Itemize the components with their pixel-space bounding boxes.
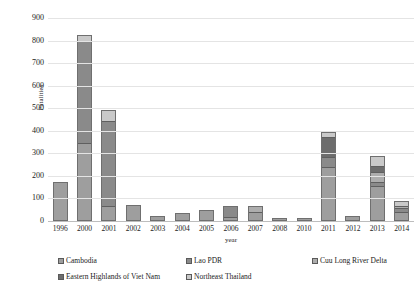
bar-segment-2004-cambodia	[176, 214, 189, 220]
bar-slot-2012	[341, 18, 365, 221]
plot-area: Fatalities 9008007006005004003002001000 …	[0, 0, 420, 250]
gridline-400	[48, 131, 414, 132]
legend-label: Cuu Long River Delta	[320, 256, 387, 265]
bar-segment-2008-cambodia	[273, 219, 286, 220]
bar-slot-2013	[365, 18, 389, 221]
chart-legend: CambodiaLao PDRCuu Long River Delta East…	[0, 252, 420, 296]
bar-segment-2013-cambodia	[371, 187, 384, 220]
bar-2002[interactable]	[126, 205, 141, 221]
y-tick-800: 800	[10, 37, 44, 45]
gridline-200	[48, 176, 414, 177]
x-tick-1996: 1996	[48, 224, 72, 233]
y-axis-tick-labels: 9008007006005004003002001000	[8, 0, 44, 250]
bar-segment-2002-cambodia	[127, 206, 140, 220]
bar-segment-2006-cambodia	[224, 218, 237, 220]
legend-row-2: Eastern Highlands of Viet NamNortheast T…	[0, 270, 420, 283]
y-tick-600: 600	[10, 82, 44, 90]
bar-slot-2011	[316, 18, 340, 221]
bar-segment-2001-cambodia	[102, 207, 115, 220]
legend-row-1: CambodiaLao PDRCuu Long River Delta	[0, 254, 420, 267]
bar-segment-2011-lao-pdr	[322, 158, 335, 168]
x-tick-2002: 2002	[121, 224, 145, 233]
y-tick-400: 400	[10, 127, 44, 135]
bar-segment-2010-cambodia	[298, 219, 311, 220]
bar-segment-2014-cambodia	[395, 213, 408, 220]
bar-slot-2010	[292, 18, 316, 221]
legend-label: Northeast Thailand	[194, 272, 252, 281]
y-tick-300: 300	[10, 149, 44, 157]
y-tick-0: 0	[10, 217, 44, 225]
x-tick-2001: 2001	[97, 224, 121, 233]
bar-2004[interactable]	[175, 213, 190, 221]
bar-segment-2003-cambodia	[151, 217, 164, 220]
gridline-100	[48, 198, 414, 199]
bar-segment-2001-lao-pdr	[102, 122, 115, 208]
bar-segment-2012-cambodia	[346, 217, 359, 220]
bar-slot-2014	[390, 18, 414, 221]
bar-segment-2013-northeast-thailand	[371, 157, 384, 167]
x-tick-2003: 2003	[146, 224, 170, 233]
x-tick-2010: 2010	[292, 224, 316, 233]
bar-2013[interactable]	[370, 156, 385, 221]
legend-swatch-icon	[58, 258, 64, 264]
y-tick-500: 500	[10, 104, 44, 112]
gridline-600	[48, 86, 414, 87]
x-tick-2005: 2005	[195, 224, 219, 233]
bar-slot-2002	[121, 18, 145, 221]
bar-series-container	[48, 18, 414, 221]
bar-slot-2000	[73, 18, 97, 221]
bar-slot-2005	[195, 18, 219, 221]
x-axis-title: year	[48, 236, 414, 244]
x-tick-2004: 2004	[170, 224, 194, 233]
x-tick-2011: 2011	[316, 224, 340, 233]
legend-swatch-icon	[186, 274, 192, 280]
bar-segment-1996-cambodia	[54, 183, 67, 220]
bar-slot-2001	[97, 18, 121, 221]
bar-segment-2000-cambodia	[78, 144, 91, 220]
y-tick-700: 700	[10, 59, 44, 67]
legend-item-cambodia[interactable]: Cambodia	[58, 256, 97, 265]
y-tick-100: 100	[10, 194, 44, 202]
bar-2005[interactable]	[199, 210, 214, 221]
bar-slot-2006	[219, 18, 243, 221]
legend-swatch-icon	[58, 274, 64, 280]
bar-segment-2005-cambodia	[200, 211, 213, 220]
legend-label: Cambodia	[66, 256, 97, 265]
legend-label: Lao PDR	[194, 256, 222, 265]
x-tick-2007: 2007	[243, 224, 267, 233]
gridline-700	[48, 63, 414, 64]
x-axis-tick-labels: 1996200020012002200320042005200620072008…	[48, 224, 414, 236]
x-tick-2012: 2012	[341, 224, 365, 233]
x-tick-2000: 2000	[73, 224, 97, 233]
bar-slot-1996	[48, 18, 72, 221]
legend-item-lao-pdr[interactable]: Lao PDR	[186, 256, 222, 265]
bar-2001[interactable]	[101, 110, 116, 221]
x-tick-2013: 2013	[365, 224, 389, 233]
legend-swatch-icon	[186, 258, 192, 264]
gridline-300	[48, 153, 414, 154]
bar-2006[interactable]	[223, 206, 238, 221]
x-tick-2014: 2014	[390, 224, 414, 233]
legend-label: Eastern Highlands of Viet Nam	[66, 272, 160, 281]
stacked-bar-chart: Fatalities 9008007006005004003002001000 …	[0, 0, 420, 298]
bar-slot-2003	[146, 18, 170, 221]
bar-segment-2007-cambodia	[249, 213, 262, 220]
bar-2007[interactable]	[248, 206, 263, 221]
legend-item-eastern-highlands-of-viet-nam[interactable]: Eastern Highlands of Viet Nam	[58, 272, 160, 281]
legend-swatch-icon	[312, 258, 318, 264]
x-tick-2008: 2008	[268, 224, 292, 233]
gridline-500	[48, 108, 414, 109]
bar-slot-2008	[268, 18, 292, 221]
bar-segment-2001-northeast-thailand	[102, 111, 115, 121]
bar-segment-2006-lao-pdr	[224, 207, 237, 218]
gridline-800	[48, 41, 414, 42]
bar-segment-2000-lao-pdr	[78, 42, 91, 143]
bar-1996[interactable]	[53, 182, 68, 221]
x-tick-2006: 2006	[219, 224, 243, 233]
y-tick-900: 900	[10, 14, 44, 22]
legend-item-cuu-long-river-delta[interactable]: Cuu Long River Delta	[312, 256, 387, 265]
gridline-900	[48, 18, 414, 19]
bar-segment-2013-cuu-long-river-delta	[371, 173, 384, 184]
legend-item-northeast-thailand[interactable]: Northeast Thailand	[186, 272, 252, 281]
bar-2014[interactable]	[394, 201, 409, 221]
